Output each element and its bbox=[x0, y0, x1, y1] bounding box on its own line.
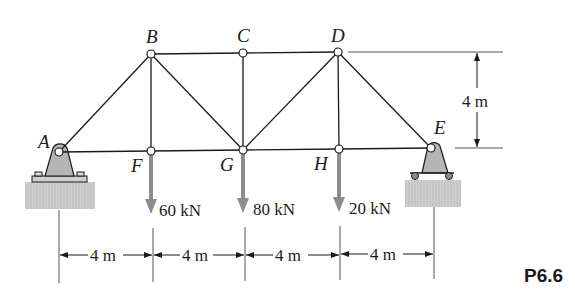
load-label-g: 80 kN bbox=[253, 200, 295, 219]
joint-label-c: C bbox=[237, 25, 250, 46]
load-label-f: 60 kN bbox=[159, 201, 201, 220]
ground-left bbox=[25, 182, 95, 209]
joint-a bbox=[55, 148, 63, 156]
span-label-4: 4 m bbox=[370, 245, 396, 264]
load-arrow-h bbox=[333, 153, 345, 212]
joint-label-g: G bbox=[220, 154, 234, 175]
member-ab bbox=[59, 54, 151, 152]
member-dg bbox=[243, 52, 338, 150]
joint-b bbox=[147, 50, 155, 58]
joint-e bbox=[427, 144, 435, 152]
member-bc bbox=[151, 53, 243, 54]
span-label-1: 4 m bbox=[90, 246, 116, 265]
member-dh bbox=[338, 52, 339, 149]
joint-h bbox=[335, 145, 343, 153]
truss-joints bbox=[55, 48, 435, 156]
load-arrow-f bbox=[145, 155, 157, 214]
span-label-2: 4 m bbox=[182, 246, 208, 265]
figure-label: P6.6 bbox=[524, 265, 563, 286]
joint-label-a: A bbox=[36, 131, 50, 152]
span-label-3: 4 m bbox=[275, 246, 301, 265]
member-de bbox=[338, 52, 431, 148]
truss-members bbox=[59, 52, 431, 152]
height-label: 4 m bbox=[462, 92, 488, 111]
truss-diagram: A B C D E F G H 60 kN 80 kN 20 kN 4 m 4 … bbox=[0, 0, 575, 303]
load-label-h: 20 kN bbox=[349, 199, 391, 218]
joint-g bbox=[239, 146, 247, 154]
joint-d bbox=[334, 48, 342, 56]
joint-label-d: D bbox=[330, 25, 345, 46]
member-af bbox=[59, 151, 151, 152]
joint-f bbox=[147, 147, 155, 155]
member-bg bbox=[151, 54, 243, 150]
member-gh bbox=[243, 149, 339, 150]
ground-right bbox=[405, 180, 461, 207]
joint-label-f: F bbox=[130, 155, 143, 176]
joint-label-b: B bbox=[146, 26, 158, 47]
member-fg bbox=[151, 150, 243, 151]
joint-c bbox=[239, 49, 247, 57]
member-he bbox=[339, 148, 431, 149]
member-cd bbox=[243, 52, 338, 53]
joint-label-h: H bbox=[313, 153, 329, 174]
load-arrow-g bbox=[237, 154, 249, 213]
joint-label-e: E bbox=[433, 117, 446, 138]
